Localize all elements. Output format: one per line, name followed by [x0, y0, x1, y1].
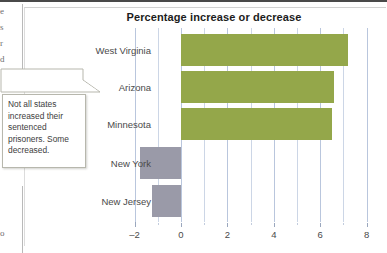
bar — [181, 34, 348, 66]
x-tick-label: 0 — [169, 229, 193, 240]
bar — [152, 185, 181, 217]
bar — [181, 108, 332, 140]
callout-tail-icon — [0, 68, 105, 94]
callout-annotation: Not all states increased their sentenced… — [2, 94, 86, 168]
category-label: West Virginia — [31, 45, 151, 56]
x-tick-label: –2 — [123, 229, 147, 240]
x-tick-label: 2 — [215, 229, 239, 240]
x-axis-line — [136, 222, 368, 223]
callout-box: Not all states increased their sentenced… — [2, 94, 86, 168]
callout-text: Not all states increased their sentenced… — [8, 99, 82, 157]
x-tick-label: 4 — [262, 229, 286, 240]
x-tick-label: 6 — [308, 229, 332, 240]
bar — [181, 71, 334, 103]
x-tick-label: 8 — [355, 229, 379, 240]
category-label: New Jersey — [31, 196, 151, 207]
